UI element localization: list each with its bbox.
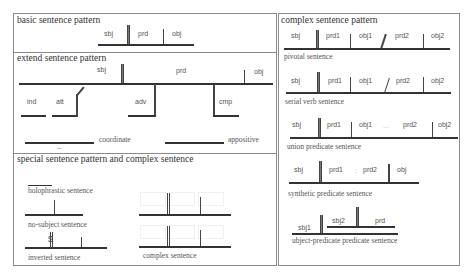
serial-divider-1 xyxy=(350,77,351,93)
synthetic-colon: : xyxy=(355,167,357,174)
basic-subject-predicate-divider xyxy=(127,25,130,44)
ghost-box xyxy=(198,192,224,206)
pivotal-prd2-label: prd2 xyxy=(395,32,409,39)
ind-line xyxy=(21,115,46,117)
cmp-line xyxy=(213,115,239,117)
complex-lower-divider xyxy=(200,230,201,247)
sp-inner-baseline xyxy=(327,226,395,228)
complex-caption: complex sentence xyxy=(143,251,197,260)
union-prd1-label: prd1 xyxy=(327,121,341,128)
pivotal-sbj-label: sbj xyxy=(291,32,300,39)
serial-obj1-label: obj1 xyxy=(359,77,372,84)
union-subject-divider xyxy=(318,118,321,138)
serial-caption: serial verb sentence xyxy=(285,97,344,106)
extend-predicate-object-divider xyxy=(244,70,245,84)
synthetic-subject-divider xyxy=(319,161,322,183)
att-stem xyxy=(76,94,78,117)
synthetic-caption: synthetic predicate sentence xyxy=(288,189,372,198)
serial-slash xyxy=(384,78,390,94)
appositive-line xyxy=(165,142,224,144)
union-prd2-label: prd2 xyxy=(403,121,417,128)
extend-baseline xyxy=(19,83,273,85)
coordinate-label: coordinate xyxy=(99,135,131,144)
ghost-box xyxy=(140,225,166,239)
basic-pattern-title: basic sentence pattern xyxy=(17,15,100,25)
ind-label: ind xyxy=(27,98,36,105)
sp-sbj1-label: sbj1 xyxy=(298,224,311,231)
cmp-label: cmp xyxy=(219,98,232,105)
extend-subject-predicate-divider xyxy=(121,64,124,84)
union-sbj-label: sbj xyxy=(292,121,301,128)
basic-prd-label: prd xyxy=(138,30,148,37)
sp-inner-divider xyxy=(356,207,359,226)
serial-prd2-label: prd2 xyxy=(396,77,410,84)
serial-prd1-label: prd1 xyxy=(328,77,342,84)
holophrastic-caption: holophrastic sentence xyxy=(28,186,93,195)
cmp-stem xyxy=(213,84,215,116)
sp-baseline xyxy=(292,233,398,235)
pivotal-obj1-label: obj1 xyxy=(359,32,372,39)
ghost-box xyxy=(140,192,166,206)
inverted-baseline xyxy=(25,247,107,249)
synthetic-prd2-label: prd2 xyxy=(363,166,377,173)
sp-caption: ubject-predicate predicate sentence xyxy=(292,236,397,245)
basic-baseline xyxy=(98,44,194,46)
pivotal-baseline xyxy=(284,48,450,50)
basic-sbj-label: sbj xyxy=(104,30,113,37)
synthetic-sbj-label: sbj xyxy=(294,166,303,173)
extend-prd-label: prd xyxy=(176,67,186,74)
union-divider-2 xyxy=(432,122,433,138)
serial-sbj-label: sbj xyxy=(291,77,300,84)
synthetic-prd1-label: prd1 xyxy=(329,166,343,173)
extend-pattern-title: extend sentence pattern xyxy=(17,53,106,63)
complex-upper-baseline xyxy=(139,214,231,216)
union-baseline xyxy=(290,137,458,139)
sp-sbj2-label: sbj2 xyxy=(332,217,345,224)
no-subject-divider xyxy=(54,200,55,215)
att-line xyxy=(52,115,77,117)
pivotal-caption: pivotal sentence xyxy=(284,52,333,61)
sp-prd-label: prd xyxy=(375,217,385,224)
att-slant xyxy=(76,87,85,97)
pivotal-prd1-label: prd1 xyxy=(326,32,340,39)
no-subject-baseline xyxy=(25,214,83,216)
union-caption: union predicate sentence xyxy=(287,142,361,151)
pivotal-subject-divider xyxy=(316,30,319,49)
extend-obj-label: obj xyxy=(254,68,263,75)
complex-upper-divider xyxy=(200,197,201,214)
serial-baseline xyxy=(286,92,451,94)
union-obj1-label: obj1 xyxy=(359,121,372,128)
coordinate-dots: ... xyxy=(57,144,62,150)
inverted-double-divider xyxy=(50,232,53,248)
pivotal-divider-1 xyxy=(350,34,351,49)
pivotal-divider-2 xyxy=(423,34,424,49)
synthetic-baseline xyxy=(289,182,419,184)
complex-upper-double-divider xyxy=(167,193,170,214)
left-panel: basic sentence pattern sbj prd obj exten… xyxy=(13,13,277,266)
serial-obj2-label: obj2 xyxy=(431,77,444,84)
appositive-label: appositive xyxy=(228,135,259,144)
basic-obj-label: obj xyxy=(172,30,181,37)
no-subject-caption: no-subject sentence xyxy=(28,220,87,229)
complex-lower-baseline xyxy=(139,246,231,248)
synthetic-obj-label: obj xyxy=(397,166,406,173)
adv-stem xyxy=(154,84,156,116)
complex-lower-double-divider xyxy=(167,226,170,247)
basic-predicate-object-divider xyxy=(163,29,164,44)
union-divider-1 xyxy=(351,122,352,138)
ghost-box xyxy=(198,225,224,239)
synthetic-divider xyxy=(388,164,390,183)
inverted-caption: inverted sentence xyxy=(28,253,80,262)
union-obj2-label: obj2 xyxy=(438,121,451,128)
adv-label: adv xyxy=(135,98,146,105)
ghost-box xyxy=(169,192,195,206)
adv-line xyxy=(128,115,156,117)
union-ellipsis: ... xyxy=(383,122,389,129)
serial-subject-divider xyxy=(317,72,320,93)
extend-sbj-label: sbj xyxy=(97,66,106,73)
special-pattern-title: special sentence pattern and complex sen… xyxy=(17,154,193,164)
ghost-box xyxy=(169,225,195,239)
complex-pattern-title: complex sentence pattern xyxy=(281,15,378,25)
att-label: att xyxy=(56,98,64,105)
serial-divider-2 xyxy=(423,77,424,93)
